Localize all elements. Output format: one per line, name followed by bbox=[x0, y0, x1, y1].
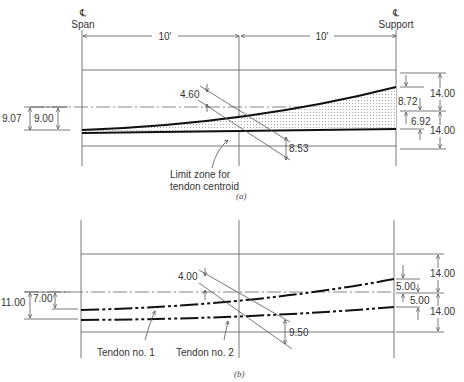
dim-midspan-lower-b: 9.50 bbox=[289, 327, 309, 338]
dim-midspan-upper: 4.60 bbox=[180, 89, 200, 100]
zone-label-line1: Limit zone for bbox=[170, 169, 231, 180]
dim-span-inner: 9.00 bbox=[34, 113, 54, 124]
tendon-2-label: Tendon no. 2 bbox=[176, 347, 234, 358]
caption-a: (a) bbox=[236, 191, 247, 201]
dim-lower-limit-support: 6.92 bbox=[411, 116, 431, 127]
tendon-profile-diagram: ℄ Span ℄ Support 10' 10' 9.07 9.00 bbox=[0, 0, 464, 382]
panel-a: ℄ Span ℄ Support 10' 10' 9.07 9.00 bbox=[2, 7, 462, 201]
dim-midspan-lower: 8.53 bbox=[289, 143, 309, 154]
zone-label-line2: tendon centroid bbox=[170, 181, 239, 192]
tendon2-leader bbox=[224, 321, 228, 340]
dim-midspan-upper-b: 4.00 bbox=[178, 271, 198, 282]
support-centerline-symbol: ℄ bbox=[392, 7, 400, 18]
diag-ext bbox=[199, 283, 292, 349]
dim-tendon1-support: 5.00 bbox=[396, 281, 416, 292]
dim-tendon2-support: 5.00 bbox=[410, 295, 430, 306]
dim-span-outer: 9.07 bbox=[2, 113, 22, 124]
dim-span-outer-b: 11.00 bbox=[1, 297, 26, 308]
dim-upper-limit-support: 8.72 bbox=[398, 96, 418, 107]
dim-top-depth-b: 14.00 bbox=[430, 268, 455, 279]
dim-span-inner-b: 7.00 bbox=[33, 293, 53, 304]
dim-right-label: 10' bbox=[315, 31, 328, 42]
zone-leader bbox=[212, 140, 228, 168]
dim-bottom-depth: 14.00 bbox=[430, 125, 455, 136]
tendon1-leader bbox=[145, 311, 155, 340]
support-label: Support bbox=[378, 19, 413, 30]
panel-b: 11.00 7.00 4.00 9.50 Tendon no. 1 Tendon… bbox=[1, 220, 462, 379]
span-centerline-symbol: ℄ bbox=[79, 7, 87, 18]
dim-left-label: 10' bbox=[158, 31, 171, 42]
diag-ext bbox=[199, 270, 290, 322]
dim-top-depth: 14.00 bbox=[430, 88, 455, 99]
dim-bottom-depth-b: 14.00 bbox=[430, 306, 455, 317]
tendon-1-label: Tendon no. 1 bbox=[97, 347, 155, 358]
span-label: Span bbox=[71, 19, 94, 30]
caption-b: (b) bbox=[234, 369, 245, 379]
tendon-1 bbox=[81, 279, 394, 310]
